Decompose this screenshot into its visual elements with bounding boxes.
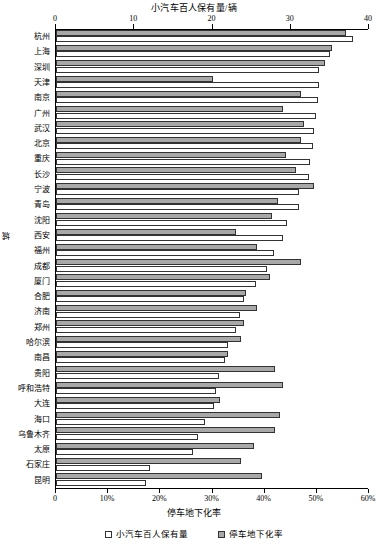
category-label: 大连 — [34, 399, 50, 408]
bar-car-ownership[interactable] — [56, 189, 299, 195]
bar-row[interactable] — [56, 458, 369, 472]
bar-row[interactable] — [56, 121, 369, 135]
bar-row[interactable] — [56, 213, 369, 227]
bar-parking-rate[interactable] — [56, 305, 257, 311]
bar-car-ownership[interactable] — [56, 235, 283, 241]
bar-car-ownership[interactable] — [56, 296, 244, 302]
bar-parking-rate[interactable] — [56, 397, 220, 403]
bar-car-ownership[interactable] — [56, 113, 316, 119]
bar-parking-rate[interactable] — [56, 351, 228, 357]
bar-car-ownership[interactable] — [56, 281, 256, 287]
legend-item[interactable]: 小汽车百人保有量 — [105, 528, 188, 540]
bar-row[interactable] — [56, 443, 369, 457]
bar-parking-rate[interactable] — [56, 382, 283, 388]
bar-car-ownership[interactable] — [56, 327, 236, 333]
bar-row[interactable] — [56, 305, 369, 319]
bar-car-ownership[interactable] — [56, 36, 353, 42]
bar-parking-rate[interactable] — [56, 198, 278, 204]
category-label: 北京 — [34, 139, 50, 148]
bar-row[interactable] — [56, 427, 369, 441]
bar-car-ownership[interactable] — [56, 250, 274, 256]
category-label: 青岛 — [34, 200, 50, 209]
bar-parking-rate[interactable] — [56, 213, 272, 219]
bar-row[interactable] — [56, 382, 369, 396]
bar-car-ownership[interactable] — [56, 403, 214, 409]
bar-row[interactable] — [56, 259, 369, 273]
bar-car-ownership[interactable] — [56, 434, 198, 440]
bar-parking-rate[interactable] — [56, 137, 301, 143]
bar-parking-rate[interactable] — [56, 427, 275, 433]
bar-car-ownership[interactable] — [56, 449, 193, 455]
bar-parking-rate[interactable] — [56, 336, 241, 342]
bar-car-ownership[interactable] — [56, 159, 310, 165]
bar-parking-rate[interactable] — [56, 229, 236, 235]
bar-parking-rate[interactable] — [56, 458, 241, 464]
bar-row[interactable] — [56, 60, 369, 74]
bar-parking-rate[interactable] — [56, 290, 246, 296]
bar-row[interactable] — [56, 351, 369, 365]
bar-row[interactable] — [56, 198, 369, 212]
bar-row[interactable] — [56, 137, 369, 151]
bar-car-ownership[interactable] — [56, 128, 314, 134]
bar-parking-rate[interactable] — [56, 320, 244, 326]
bar-parking-rate[interactable] — [56, 443, 254, 449]
bar-car-ownership[interactable] — [56, 465, 150, 471]
bar-row[interactable] — [56, 183, 369, 197]
bar-parking-rate[interactable] — [56, 244, 257, 250]
bar-row[interactable] — [56, 473, 369, 487]
bar-car-ownership[interactable] — [56, 143, 313, 149]
bar-car-ownership[interactable] — [56, 67, 319, 73]
bar-car-ownership[interactable] — [56, 97, 318, 103]
bar-car-ownership[interactable] — [56, 174, 309, 180]
bar-row[interactable] — [56, 229, 369, 243]
bar-parking-rate[interactable] — [56, 152, 286, 158]
bar-parking-rate[interactable] — [56, 366, 275, 372]
bar-row[interactable] — [56, 366, 369, 380]
bar-car-ownership[interactable] — [56, 480, 146, 486]
bar-row[interactable] — [56, 290, 369, 304]
bar-car-ownership[interactable] — [56, 373, 219, 379]
bar-parking-rate[interactable] — [56, 106, 283, 112]
bar-row[interactable] — [56, 274, 369, 288]
bar-car-ownership[interactable] — [56, 82, 319, 88]
bar-car-ownership[interactable] — [56, 357, 225, 363]
category-label: 昆明 — [34, 476, 50, 485]
category-label: 哈尔滨 — [26, 338, 50, 347]
bar-parking-rate[interactable] — [56, 412, 280, 418]
bar-parking-rate[interactable] — [56, 91, 301, 97]
bar-car-ownership[interactable] — [56, 342, 228, 348]
bar-parking-rate[interactable] — [56, 183, 314, 189]
bar-car-ownership[interactable] — [56, 266, 267, 272]
bar-row[interactable] — [56, 244, 369, 258]
bar-car-ownership[interactable] — [56, 312, 240, 318]
bar-row[interactable] — [56, 152, 369, 166]
bar-car-ownership[interactable] — [56, 220, 287, 226]
bar-car-ownership[interactable] — [56, 419, 205, 425]
category-label: 武汉 — [34, 124, 50, 133]
bar-car-ownership[interactable] — [56, 204, 299, 210]
bar-parking-rate[interactable] — [56, 167, 296, 173]
bar-parking-rate[interactable] — [56, 60, 325, 66]
top-axis-tick-label: 40 — [364, 13, 372, 24]
bar-parking-rate[interactable] — [56, 76, 213, 82]
bar-parking-rate[interactable] — [56, 473, 262, 479]
bar-car-ownership[interactable] — [56, 388, 216, 394]
bar-row[interactable] — [56, 336, 369, 350]
bar-row[interactable] — [56, 397, 369, 411]
bar-car-ownership[interactable] — [56, 51, 330, 57]
legend-item[interactable]: 停车地下化率 — [218, 528, 283, 540]
bar-row[interactable] — [56, 76, 369, 90]
bar-row[interactable] — [56, 320, 369, 334]
bar-parking-rate[interactable] — [56, 45, 332, 51]
bar-parking-rate[interactable] — [56, 274, 270, 280]
bar-row[interactable] — [56, 167, 369, 181]
bar-row[interactable] — [56, 91, 369, 105]
bar-row[interactable] — [56, 412, 369, 426]
bar-parking-rate[interactable] — [56, 259, 301, 265]
bar-row[interactable] — [56, 45, 369, 59]
bar-row[interactable] — [56, 30, 369, 44]
category-label: 沈阳 — [34, 216, 50, 225]
bar-parking-rate[interactable] — [56, 121, 304, 127]
bar-parking-rate[interactable] — [56, 30, 346, 36]
bar-row[interactable] — [56, 106, 369, 120]
